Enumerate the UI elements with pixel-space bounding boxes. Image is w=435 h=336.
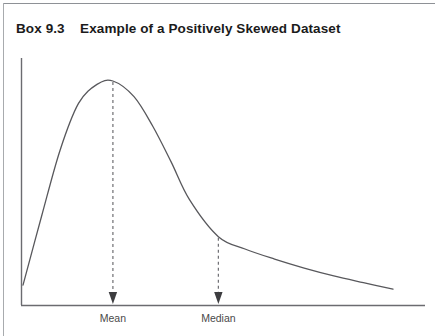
mean-arrowhead xyxy=(109,292,117,304)
skewed-distribution-plot xyxy=(0,0,435,336)
mean-label: Mean xyxy=(100,312,126,324)
distribution-curve xyxy=(23,80,393,289)
figure-box: Box 9.3 Example of a Positively Skewed D… xyxy=(0,0,435,336)
median-label: Median xyxy=(201,312,235,324)
median-arrowhead xyxy=(214,292,222,304)
